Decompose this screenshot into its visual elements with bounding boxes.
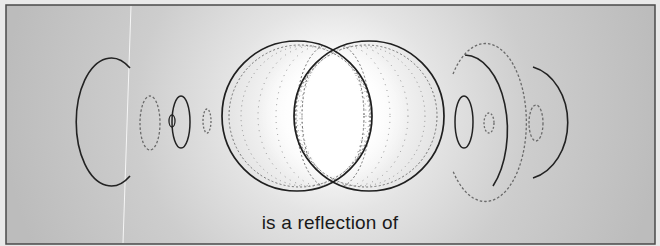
diagram-canvas — [0, 0, 660, 246]
lens-highlight — [305, 56, 361, 176]
reflection-diagram: is a reflection of — [0, 0, 660, 246]
diagram-caption: is a reflection of — [0, 212, 660, 234]
